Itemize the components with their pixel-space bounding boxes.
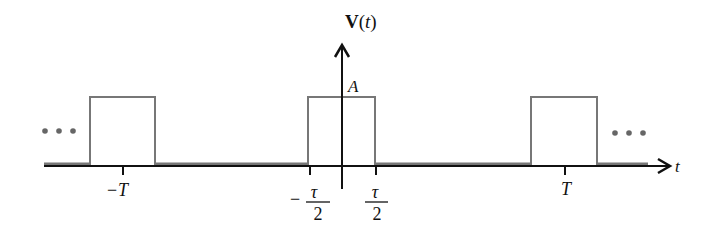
y-axis (335, 44, 349, 189)
ellipsis-right (612, 130, 646, 136)
label-minus-tau-half-numerator: τ (311, 182, 318, 202)
y-axis-label: V(t) (345, 11, 377, 33)
pulse-train-diagram: V(t) A t − T − τ 2 τ 2 T (0, 0, 711, 236)
x-axis (44, 159, 670, 173)
ticks (123, 166, 565, 175)
pulse-T (531, 97, 597, 165)
x-axis-label: t (675, 157, 681, 176)
label-tau-half-numerator: τ (372, 182, 379, 202)
pulses (90, 97, 597, 165)
label-minus-T: T (118, 180, 130, 200)
amplitude-label: A (347, 77, 359, 96)
label-minus-tau-half-sign: − (290, 189, 300, 209)
label-T: T (561, 179, 573, 199)
diagram-svg: V(t) A t − T − τ 2 τ 2 T (0, 0, 711, 236)
pulse-minus-T (90, 97, 155, 165)
ellipsis-left (42, 128, 76, 134)
label-minus-T-sign: − (107, 180, 117, 200)
label-tau-half-denominator: 2 (373, 204, 382, 224)
label-minus-tau-half-denominator: 2 (314, 204, 323, 224)
